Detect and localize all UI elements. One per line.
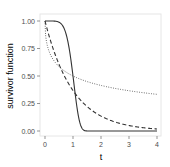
x-tick-label: 4: [155, 141, 159, 148]
x-tick-label: 0: [43, 141, 47, 148]
survival-chart: 0.000.250.500.751.00 01234 t survivor fu…: [0, 0, 170, 167]
y-axis: 0.000.250.500.751.00: [21, 18, 40, 135]
x-axis-label: t: [100, 152, 103, 162]
x-axis: 01234: [43, 136, 159, 148]
plot-panel: [40, 14, 161, 136]
x-tick-label: 3: [127, 141, 131, 148]
x-tick-label: 2: [99, 141, 103, 148]
y-tick-label: 0.50: [21, 73, 35, 80]
y-tick-label: 0.25: [21, 100, 35, 107]
y-tick-label: 0.75: [21, 45, 35, 52]
y-axis-label: survivor function: [5, 43, 15, 109]
x-tick-label: 1: [71, 141, 75, 148]
y-tick-label: 1.00: [21, 18, 35, 25]
y-tick-label: 0.00: [21, 128, 35, 135]
